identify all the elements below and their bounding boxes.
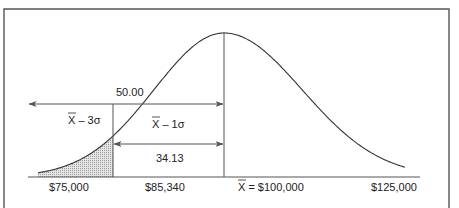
normal-distribution-diagram: 50.00 X – 3σ X – 1σ 34.13 $75,000 $85,34… (0, 0, 459, 208)
upper-arrow-value: 50.00 (116, 86, 144, 98)
tick-label-mean: X = $100,000 (238, 181, 304, 193)
tick-label-85340: $85,340 (145, 181, 185, 193)
tick-label-75000: $75,000 (49, 181, 89, 193)
minus-3-sigma-label: X – 3σ (68, 114, 101, 126)
lower-arrow-value: 34.13 (156, 152, 184, 164)
minus-1-sigma-label: X – 1σ (152, 118, 185, 130)
figure-frame (4, 9, 449, 208)
bell-curve (38, 33, 405, 173)
tick-label-125000: $125,000 (371, 181, 417, 193)
